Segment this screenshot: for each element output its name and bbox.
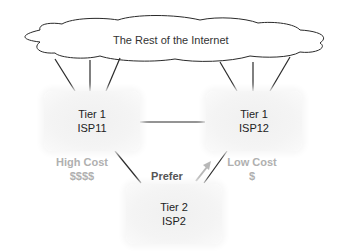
node-tier-label: Tier 1 [240,107,268,121]
cost-label: High Cost [42,155,122,169]
link-cloud-isp11-c [106,58,120,91]
cost-amount: $$$$ [42,169,122,183]
cloud-label: The Rest of the Internet [113,34,229,46]
node-tier-label: Tier 1 [78,107,106,121]
link-cloud-isp11-a [55,59,75,91]
node-tier-label: Tier 2 [160,200,188,214]
link-cloud-isp12-a [220,62,237,91]
prefer-arrow-icon [196,161,211,181]
node-isp-label: ISP12 [239,121,269,135]
node-isp-label: ISP2 [162,214,186,228]
node-isp-label: ISP11 [77,121,106,135]
cost-label: Low Cost [212,155,292,169]
node-tier1-isp11: Tier 1 ISP11 [44,91,140,151]
cost-amount: $ [212,169,292,183]
link-cloud-isp12-c [270,57,290,91]
cost-annotation-high: High Cost $$$$ [42,155,122,183]
node-tier2-isp2: Tier 2 ISP2 [126,184,222,244]
node-tier1-isp12: Tier 1 ISP12 [206,91,302,151]
cost-annotation-low: Low Cost $ [212,155,292,183]
prefer-label: Prefer [145,169,189,183]
